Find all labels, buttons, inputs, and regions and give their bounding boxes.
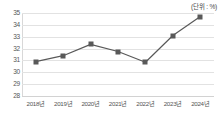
x-tick-label-2018년: 2018년 [27, 99, 45, 108]
plot-area [22, 13, 214, 96]
x-axis-tick-labels: 2018년2019년2020년2021년2022년2023년2024년 [22, 99, 214, 115]
x-tick-label-2021년: 2021년 [109, 99, 127, 108]
x-tick-label-2023년: 2023년 [164, 99, 182, 108]
x-tick-label-2019년: 2019년 [54, 99, 72, 108]
unit-label: (단위 : %) [191, 1, 217, 11]
y-tick-label-35: 35 [0, 10, 20, 17]
series-line [22, 13, 214, 96]
line-chart: (단위 : %) 3534333231302928 2018년2019년2020… [0, 0, 221, 120]
y-axis-tick-labels: 3534333231302928 [0, 13, 20, 96]
y-tick-label-34: 34 [0, 22, 20, 29]
gridline-28 [22, 96, 214, 97]
data-point-2022년 [143, 60, 148, 65]
y-tick-label-31: 31 [0, 57, 20, 64]
data-point-2018년 [33, 59, 38, 64]
x-tick-label-2020년: 2020년 [81, 99, 99, 108]
data-point-2019년 [61, 53, 66, 58]
y-tick-label-32: 32 [0, 45, 20, 52]
data-point-2021년 [116, 49, 121, 54]
data-point-2020년 [88, 42, 93, 47]
x-tick-label-2024년: 2024년 [191, 99, 209, 108]
data-point-2023년 [170, 33, 175, 38]
y-tick-label-33: 33 [0, 33, 20, 40]
y-tick-label-30: 30 [0, 69, 20, 76]
data-point-2024년 [198, 14, 203, 19]
y-tick-label-29: 29 [0, 81, 20, 88]
x-tick-label-2022년: 2022년 [136, 99, 154, 108]
y-tick-label-28: 28 [0, 93, 20, 100]
